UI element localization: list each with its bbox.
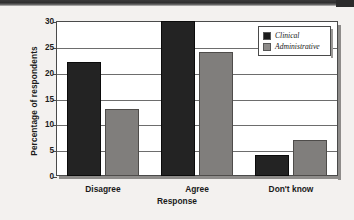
x-tick-label: Don't know	[236, 184, 346, 194]
legend-item-clinical: Clinical	[263, 30, 326, 41]
gray-square-swatch-icon	[263, 43, 271, 51]
bar-administrative-don-t-know	[293, 140, 327, 176]
chart-legend: Clinical Administrative	[258, 26, 331, 56]
bar-chart-figure: Percentage of respondents 051015202530 D…	[0, 0, 354, 220]
bar-clinical-don-t-know	[255, 155, 289, 176]
legend-label-administrative: Administrative	[275, 43, 320, 51]
y-tick-label: 25	[14, 42, 54, 51]
plot-shadow-right	[338, 25, 341, 180]
bar-administrative-disagree	[105, 109, 139, 176]
y-tick-label: 0	[14, 172, 54, 181]
black-square-swatch-icon	[263, 32, 271, 40]
x-axis-title: Response	[0, 196, 354, 206]
y-tick-label: 30	[14, 17, 54, 26]
bar-administrative-agree	[199, 52, 233, 176]
bar-clinical-disagree	[67, 62, 101, 176]
legend-label-clinical: Clinical	[275, 32, 299, 40]
legend-shadow	[331, 29, 333, 58]
plot-shadow-bottom	[59, 176, 341, 179]
legend-item-administrative: Administrative	[263, 41, 326, 52]
y-tick-label: 5	[14, 146, 54, 155]
y-tick-label: 20	[14, 68, 54, 77]
bar-clinical-agree	[161, 21, 195, 176]
y-tick-label: 10	[14, 120, 54, 129]
y-tick-label: 15	[14, 94, 54, 103]
